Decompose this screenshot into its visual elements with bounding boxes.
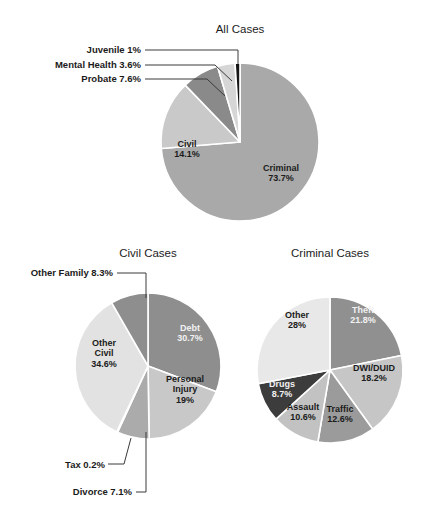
slice-label-assault: Assault10.6% [287,402,320,423]
slice-label-criminal: Criminal73.7% [263,163,299,184]
callout-leader-juvenile [145,50,238,64]
callout-label-mental-health: Mental Health 3.6% [55,59,142,70]
pie-chart-all-cases: All CasesCriminal 73.7%Civil 14.1%Probat… [55,23,319,221]
pie-chart-criminal-cases: Criminal CasesTheft 21.8%DWI/DUID 18.2%T… [257,247,403,443]
pie-chart-civil-cases: Civil CasesDebt 30.7%Personal Injury 19%… [31,247,221,497]
callout-label-divorce: Divorce 7.1% [73,486,133,497]
callout-leader-divorce [136,432,146,492]
court-cases-pie-charts: All CasesCriminal 73.7%Civil 14.1%Probat… [0,0,440,512]
slice-label-debt: Debt30.7% [177,323,203,344]
callout-leader-tax [108,438,131,464]
pie-chart-figure: All CasesCriminal 73.7%Civil 14.1%Probat… [0,0,440,512]
callout-label-other-family: Other Family 8.3% [31,267,114,278]
slice-label-theft: Theft21.8% [350,305,376,326]
chart-title-all-cases: All Cases [216,23,265,35]
slice-label-civil: Civil14.1% [174,139,200,160]
slice-label-other-civil: OtherCivil34.6% [91,338,117,369]
slice-label-traffic: Traffic12.6% [326,404,353,425]
callout-label-tax: Tax 0.2% [65,459,106,470]
slice-label-drugs: Drugs8.7% [269,379,295,400]
chart-title-civil-cases: Civil Cases [119,247,177,259]
callout-label-juvenile: Juvenile 1% [87,44,142,55]
callout-label-probate: Probate 7.6% [81,73,141,84]
slice-label-other: Other28% [285,310,310,331]
chart-title-criminal-cases: Criminal Cases [291,247,369,259]
